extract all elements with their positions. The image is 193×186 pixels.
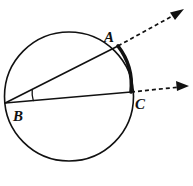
intercepted-arc-ac <box>118 46 131 92</box>
circle-outline <box>5 32 134 161</box>
point-label-b: B <box>12 108 23 124</box>
geometry-canvas: A B C <box>0 0 193 186</box>
dashed-ray-bc-extension <box>131 87 180 92</box>
arrowhead-ray-ba <box>170 9 184 20</box>
point-label-c: C <box>135 96 146 112</box>
arrowhead-ray-bc <box>176 81 189 91</box>
angle-marker-b <box>32 90 33 101</box>
dashed-ray-ba-extension <box>118 14 176 46</box>
geometry-figure: A B C <box>0 0 193 186</box>
point-label-a: A <box>103 29 114 45</box>
